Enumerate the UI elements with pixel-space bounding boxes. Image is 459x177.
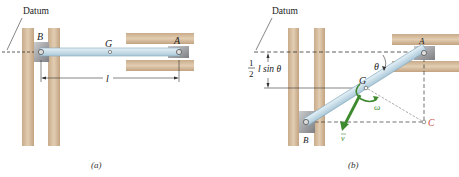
pin-a <box>421 50 426 55</box>
height-frac-den: 2 <box>249 69 254 79</box>
length-label: l <box>106 73 109 84</box>
figure-a: Datum B G A l (a) <box>2 6 194 170</box>
label-theta: θ <box>374 61 379 72</box>
instant-center-c <box>422 120 426 124</box>
label-b: B <box>37 31 43 42</box>
caption-b: (b) <box>348 160 359 170</box>
vertical-wall-right <box>314 28 325 146</box>
label-velocity: v <box>341 134 345 143</box>
height-arrow-bottom <box>267 83 270 88</box>
label-b: B <box>303 135 309 145</box>
velocity-arrowhead <box>340 121 349 131</box>
datum-pointer <box>7 18 22 50</box>
datum-label: Datum <box>23 6 49 16</box>
horizontal-wall-bottom <box>126 60 194 71</box>
vertical-wall-left <box>288 28 299 146</box>
height-arrow-top <box>267 53 270 58</box>
label-a: A <box>173 35 181 46</box>
label-c: C <box>428 118 435 128</box>
datum-pointer <box>256 18 272 50</box>
label-omega: ω <box>374 102 380 112</box>
diagram-canvas: Datum B G A l (a) Datum <box>0 0 459 177</box>
height-frac-num: 1 <box>249 58 254 68</box>
horizontal-wall-top <box>392 34 459 45</box>
dim-arrow-right <box>174 77 179 80</box>
pin-b <box>303 119 308 124</box>
figure-b: Datum 1 2 l sin θ <box>248 6 459 170</box>
horizontal-wall-top <box>126 33 194 44</box>
dim-arrow-left <box>41 77 46 80</box>
label-g: G <box>359 75 366 86</box>
center-of-mass-g <box>108 50 111 53</box>
label-a: A <box>418 36 425 46</box>
center-of-mass-g <box>364 86 368 90</box>
pin-b <box>38 49 43 54</box>
label-g: G <box>105 38 112 49</box>
datum-label: Datum <box>272 6 298 16</box>
vertical-wall-right <box>48 28 60 146</box>
height-label: l sin θ <box>258 64 281 74</box>
pin-a <box>176 49 181 54</box>
vertical-wall-left <box>22 28 34 146</box>
caption-a: (a) <box>91 160 102 170</box>
